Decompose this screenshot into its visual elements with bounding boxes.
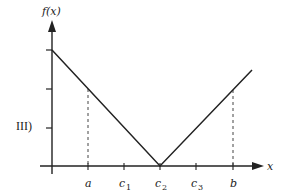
panel-label: III)	[16, 119, 32, 133]
tick-label-c2: c 2	[155, 177, 167, 192]
svg-text:c: c	[119, 177, 125, 190]
svg-text:2: 2	[162, 183, 167, 192]
svg-text:c: c	[155, 177, 161, 190]
tick-label-a: a	[85, 177, 92, 190]
tick-label-c1: c 1	[119, 177, 131, 192]
svg-text:c: c	[191, 177, 197, 190]
x-axis	[40, 162, 264, 170]
svg-text:1: 1	[126, 183, 131, 192]
y-axis	[46, 20, 56, 174]
y-axis-arrow-icon	[48, 20, 56, 32]
svg-text:3: 3	[198, 183, 203, 192]
y-axis-label: f(x)	[41, 5, 61, 18]
x-axis-label: x	[267, 160, 274, 173]
function-curve	[52, 50, 252, 166]
tick-label-c3: c 3	[191, 177, 203, 192]
tick-label-b: b	[230, 177, 237, 190]
chart-canvas: f(x) III) x a c 1 c 2 c 3 b	[0, 0, 284, 194]
x-axis-arrow-icon	[252, 162, 264, 170]
